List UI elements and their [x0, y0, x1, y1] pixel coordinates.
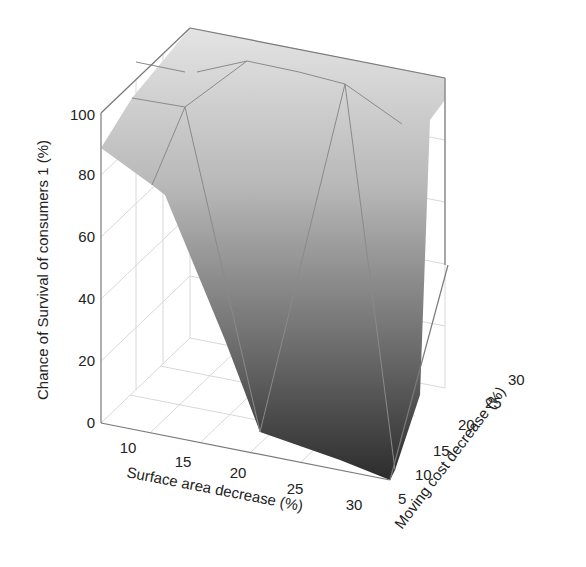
svg-text:30: 30	[346, 496, 363, 513]
svg-text:0: 0	[87, 414, 95, 431]
svg-text:100: 100	[70, 106, 95, 123]
surface-chart: 0 20 40 60 80 100 Chance of Survival of …	[0, 0, 586, 567]
surface	[101, 28, 445, 480]
z-axis-ticks: 0 20 40 60 80 100	[70, 106, 95, 431]
svg-text:80: 80	[78, 166, 95, 183]
svg-text:40: 40	[78, 290, 95, 307]
svg-text:30: 30	[508, 371, 525, 388]
svg-text:20: 20	[230, 464, 247, 481]
svg-text:60: 60	[78, 228, 95, 245]
svg-text:20: 20	[78, 352, 95, 369]
svg-text:15: 15	[175, 453, 192, 470]
svg-text:10: 10	[120, 439, 137, 456]
x-axis-label: Surface area decrease (%)	[125, 463, 304, 514]
z-axis-label: Chance of Survival of consumers 1 (%)	[34, 140, 51, 400]
